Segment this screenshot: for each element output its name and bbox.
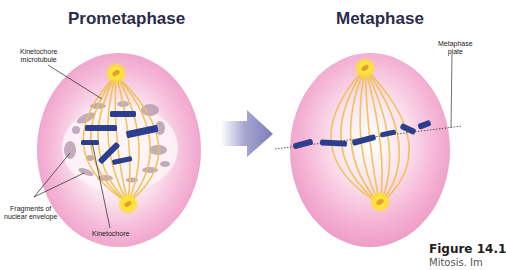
prometaphase-title: Prometaphase <box>68 9 185 29</box>
centrosome-top <box>105 62 127 84</box>
label-line-1: Metaphase <box>438 40 473 48</box>
leader-line <box>451 54 452 128</box>
figure-caption-title: Figure 14.1 <box>429 242 506 256</box>
label-line-1: Kinetochore <box>20 48 57 56</box>
figure-caption-text: Mitosis. Im <box>429 257 483 268</box>
metaphase-title: Metaphase <box>336 9 424 29</box>
metaphase-cell <box>275 53 462 247</box>
centrosome-bottom <box>369 191 391 213</box>
centrosome-bottom <box>117 193 139 215</box>
label-line-2: nuclear envelope <box>4 213 57 221</box>
prometaphase-cell <box>34 53 201 247</box>
label-line-2: microtubule <box>20 56 57 64</box>
label-line-1: Fragments of <box>4 205 57 213</box>
label-line-2: plate <box>438 48 473 56</box>
label-kinetochore-microtubule: Kinetochore microtubule <box>20 48 57 64</box>
right-arrow-icon <box>221 110 273 157</box>
label-metaphase-plate: Metaphase plate <box>438 40 473 56</box>
label-kinetochore: Kinetochore <box>92 230 129 238</box>
label-fragments-nuclear-envelope: Fragments of nuclear envelope <box>4 205 57 221</box>
centrosome-top <box>354 57 376 79</box>
